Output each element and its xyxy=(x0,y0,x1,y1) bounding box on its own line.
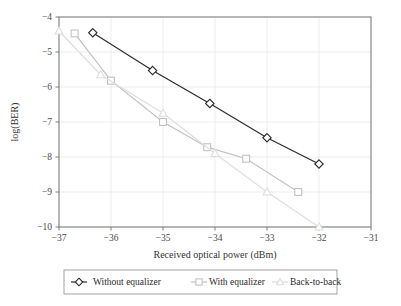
y-tick-label: −7 xyxy=(42,117,52,127)
y-tick-labels: −4−5−6−7−8−9−10 xyxy=(37,12,52,232)
data-series xyxy=(55,27,323,230)
triangle-marker xyxy=(263,188,271,195)
ber-vs-received-power-chart: −37−36−35−34−33−32−31 −4−5−6−7−8−9−10 Re… xyxy=(0,0,401,306)
x-tick-label: −37 xyxy=(52,233,67,243)
axis-ticks xyxy=(56,17,372,231)
legend-label: Back-to-back xyxy=(290,277,341,287)
chart-legend: Without equalizerWith equalizerBack-to-b… xyxy=(64,270,341,294)
triangle-marker xyxy=(55,27,63,34)
legend-label: With equalizer xyxy=(209,277,266,287)
chart-figure: −37−36−35−34−33−32−31 −4−5−6−7−8−9−10 Re… xyxy=(0,0,401,306)
y-tick-label: −10 xyxy=(37,222,52,232)
triangle-marker xyxy=(159,109,167,116)
diamond-marker xyxy=(89,29,97,37)
series-back-to-back xyxy=(55,27,323,230)
square-marker xyxy=(71,30,78,37)
x-tick-label: −31 xyxy=(364,233,379,243)
y-tick-label: −6 xyxy=(42,82,52,92)
square-marker xyxy=(295,189,302,196)
legend-label: Without equalizer xyxy=(93,277,162,287)
square-marker xyxy=(196,279,202,285)
series-line xyxy=(75,33,299,192)
x-tick-labels: −37−36−35−34−33−32−31 xyxy=(52,233,379,243)
y-axis-title: log(BER) xyxy=(9,103,21,142)
diamond-marker xyxy=(148,66,156,74)
x-tick-label: −34 xyxy=(208,233,223,243)
series-line xyxy=(59,31,319,227)
diamond-marker xyxy=(263,134,271,142)
diamond-marker xyxy=(206,99,214,107)
x-axis-title: Received optical power (dBm) xyxy=(153,249,276,261)
y-tick-label: −8 xyxy=(42,152,52,162)
x-tick-label: −35 xyxy=(156,233,171,243)
square-marker xyxy=(243,155,250,162)
triangle-marker xyxy=(315,223,323,230)
diamond-marker xyxy=(315,160,323,168)
y-tick-label: −5 xyxy=(42,47,52,57)
y-tick-label: −9 xyxy=(42,187,52,197)
square-marker xyxy=(160,119,167,126)
x-tick-label: −33 xyxy=(260,233,275,243)
x-tick-label: −32 xyxy=(312,233,327,243)
x-tick-label: −36 xyxy=(104,233,119,243)
y-tick-label: −4 xyxy=(42,12,52,22)
gridlines xyxy=(59,17,371,227)
